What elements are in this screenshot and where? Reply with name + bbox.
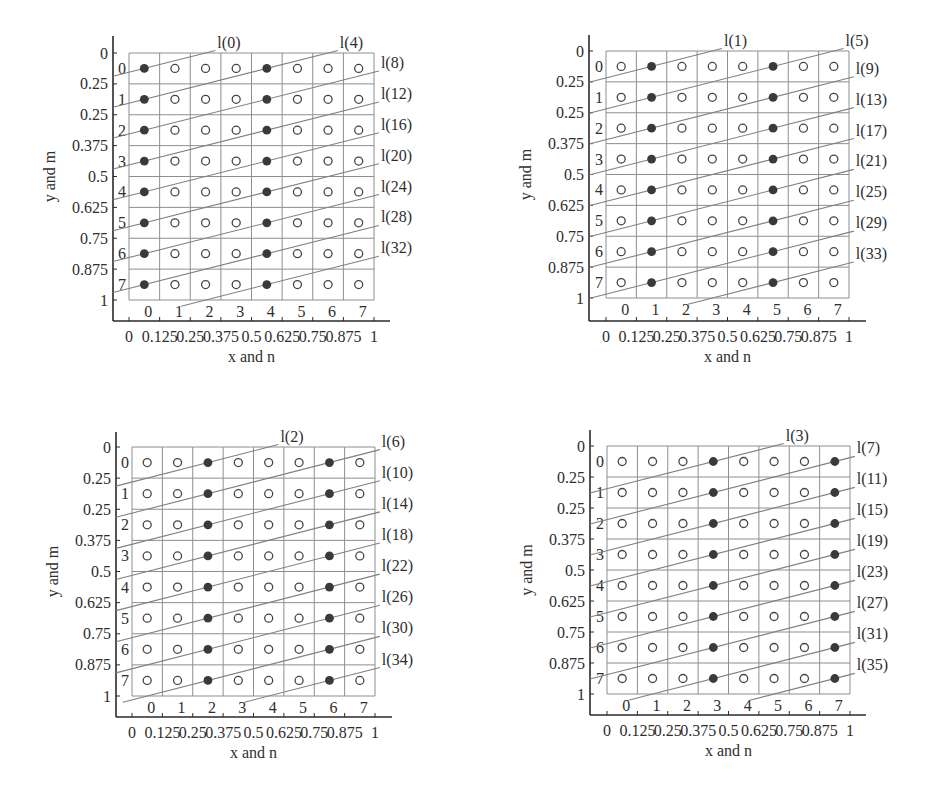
row-label: 5	[595, 212, 603, 229]
filled-point	[262, 218, 271, 227]
line-label: l(19)	[857, 532, 888, 550]
filled-point	[140, 95, 149, 104]
open-point	[265, 459, 273, 467]
open-point	[202, 64, 210, 72]
open-point	[708, 62, 716, 70]
open-point	[618, 489, 626, 497]
line-label: l(9)	[856, 60, 879, 78]
open-point	[678, 186, 686, 194]
open-point	[740, 489, 748, 497]
line-label: l(5)	[846, 32, 869, 50]
open-point	[265, 552, 273, 560]
x-tick-label: 0.5	[244, 724, 264, 741]
y-axis-title: y and m	[41, 150, 59, 202]
open-point	[232, 64, 240, 72]
open-point	[234, 676, 242, 684]
filled-point	[204, 489, 213, 498]
open-point	[202, 219, 210, 227]
column-label: 6	[803, 301, 811, 318]
line-label: l(18)	[382, 526, 413, 544]
open-point	[708, 279, 716, 287]
y-tick-label: 0.25	[80, 75, 108, 92]
open-point	[739, 62, 747, 70]
open-point	[739, 279, 747, 287]
filled-point	[140, 188, 149, 197]
open-point	[740, 520, 748, 528]
open-point	[171, 64, 179, 72]
diagonal-line	[113, 71, 379, 138]
open-point	[324, 281, 332, 289]
y-tick-label: 0.5	[91, 563, 111, 580]
open-point	[617, 62, 625, 70]
filled-point	[647, 62, 656, 71]
open-point	[202, 188, 210, 196]
line-label: l(34)	[382, 651, 413, 669]
x-tick-label: 0.125	[618, 328, 654, 345]
open-point	[649, 675, 657, 683]
open-point	[617, 155, 625, 163]
y-tick-label: 0.875	[548, 259, 584, 276]
column-label: 0	[144, 303, 152, 320]
x-tick-label: 1	[371, 724, 379, 741]
x-tick-label: 0.625	[741, 722, 777, 739]
open-point	[708, 248, 716, 256]
open-point	[356, 552, 364, 560]
open-point	[649, 551, 657, 559]
filled-point	[140, 280, 149, 289]
diagonal-line	[589, 77, 854, 144]
open-point	[618, 551, 626, 559]
line-label: l(4)	[340, 34, 363, 52]
x-tick-label: 0.875	[325, 328, 361, 345]
open-point	[295, 645, 303, 653]
filled-point	[204, 583, 213, 592]
diagonal-line	[589, 169, 854, 236]
diagonal-line	[590, 611, 855, 679]
filled-point	[262, 95, 271, 104]
cell-grid	[129, 53, 374, 300]
open-point	[800, 675, 808, 683]
x-tick-label: 0.625	[266, 724, 302, 741]
column-label: 2	[208, 699, 216, 716]
x-tick-label: 0.25	[654, 722, 682, 739]
line-family: l(1)l(5)l(9)l(13)l(17)l(21)l(25)l(29)l(3…	[589, 32, 887, 305]
open-point	[740, 458, 748, 466]
open-point	[799, 93, 807, 101]
open-point	[739, 217, 747, 225]
panel-top-left: 00.250.250.3750.50.6250.750.875100.1250.…	[41, 34, 412, 365]
open-point	[174, 583, 182, 591]
open-point	[171, 157, 179, 165]
open-point	[678, 248, 686, 256]
line-label: l(33)	[856, 245, 887, 263]
filled-point	[769, 216, 778, 225]
x-tick-label: 0	[602, 328, 610, 345]
open-point	[830, 248, 838, 256]
diagonal-line	[589, 139, 854, 206]
open-point	[356, 676, 364, 684]
open-point	[293, 188, 301, 196]
filled-point	[769, 62, 778, 71]
open-point	[324, 250, 332, 258]
open-point	[356, 645, 364, 653]
open-point	[649, 489, 657, 497]
open-point	[355, 219, 363, 227]
row-label: 6	[595, 243, 603, 260]
open-point	[143, 521, 151, 529]
line-label: l(31)	[857, 625, 888, 643]
open-point	[800, 520, 808, 528]
open-point	[295, 552, 303, 560]
open-point	[355, 281, 363, 289]
line-label: l(8)	[381, 54, 404, 72]
y-tick-label: 1	[103, 688, 111, 705]
line-label: l(0)	[217, 34, 240, 52]
open-point	[232, 126, 240, 134]
filled-point	[262, 188, 271, 197]
column-label: 1	[178, 699, 186, 716]
x-tick-label: 0.125	[619, 722, 655, 739]
open-point	[265, 521, 273, 529]
line-label: l(16)	[381, 116, 412, 134]
y-tick-label: 0	[576, 43, 584, 60]
filled-point	[830, 550, 839, 559]
filled-point	[325, 583, 334, 592]
open-point	[740, 582, 748, 590]
column-label: 4	[269, 699, 277, 716]
